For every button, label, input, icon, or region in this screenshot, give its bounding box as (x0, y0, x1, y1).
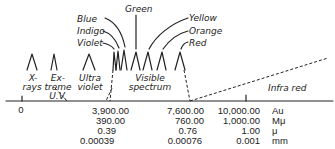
yellow-peak-icon (143, 52, 152, 70)
infrared-dash (190, 58, 328, 101)
label-red: Red (189, 39, 207, 48)
axis-zero: 0 (16, 105, 26, 115)
col1-mm: 0.00039 (70, 136, 154, 146)
violet-peak-icon (113, 52, 116, 70)
col2-mm: 0.00076 (160, 136, 202, 146)
label-extreme-3: U.V. (46, 92, 70, 101)
green-peak-icon (131, 52, 140, 70)
violet-boundary-dash (110, 70, 113, 101)
violet-leader (103, 43, 114, 49)
label-blue: Blue (77, 15, 97, 24)
label-orange: Orange (189, 27, 222, 36)
col3-mm: 0.001 (210, 136, 260, 146)
red-peak-icon (175, 52, 185, 70)
label-green: Green (125, 5, 152, 14)
electromagnetic-spectrum-diagram: Blue Indigo Violet Green Yellow Orange R… (0, 0, 335, 149)
label-yellow: Yellow (189, 14, 217, 23)
red-boundary-dash (184, 70, 190, 101)
label-indigo: Indigo (77, 27, 105, 36)
blue-peak-icon (121, 50, 127, 70)
unit-mm: mm (272, 136, 288, 146)
label-violet: Violet (77, 39, 103, 48)
red-leader (181, 42, 188, 49)
orange-peak-icon (157, 52, 166, 70)
extreme-uv-peak-icon (51, 54, 57, 70)
xrays-peak-icon (27, 54, 37, 70)
label-ultra-2: violet (73, 83, 107, 92)
label-infrared: Infra red (268, 84, 307, 93)
label-visible-2: spectrum (125, 83, 175, 92)
orange-leader (163, 31, 188, 49)
indigo-peak-icon (116, 51, 120, 70)
ultraviolet-peak-icon (83, 54, 95, 70)
